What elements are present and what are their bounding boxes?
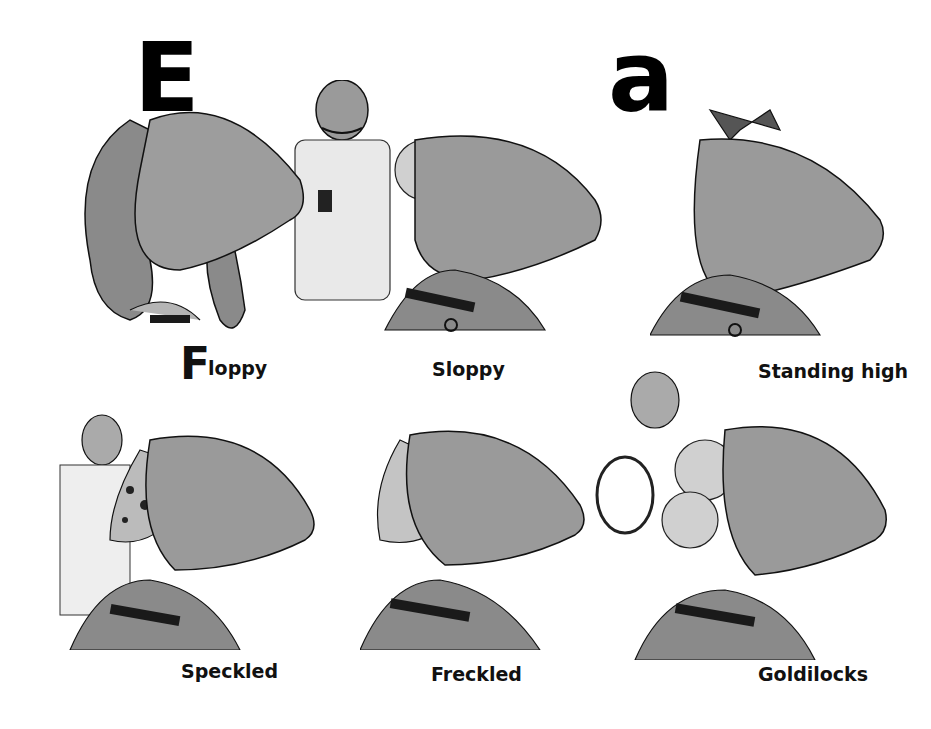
illustration-goldilocks	[585, 370, 895, 660]
illustration-speckled	[40, 410, 320, 650]
illustration-sloppy	[365, 110, 625, 350]
label-floppy: Floppy	[180, 342, 267, 386]
label-sloppy: Sloppy	[432, 358, 505, 380]
label-goldilocks: Goldilocks	[758, 663, 868, 685]
label-speckled: Speckled	[181, 660, 278, 682]
label-freckled: Freckled	[431, 663, 522, 685]
label-floppy-cap: F	[180, 338, 208, 389]
illustration-standing-high	[650, 100, 900, 340]
illustration-freckled	[360, 420, 600, 650]
label-floppy-rest: loppy	[208, 357, 267, 379]
